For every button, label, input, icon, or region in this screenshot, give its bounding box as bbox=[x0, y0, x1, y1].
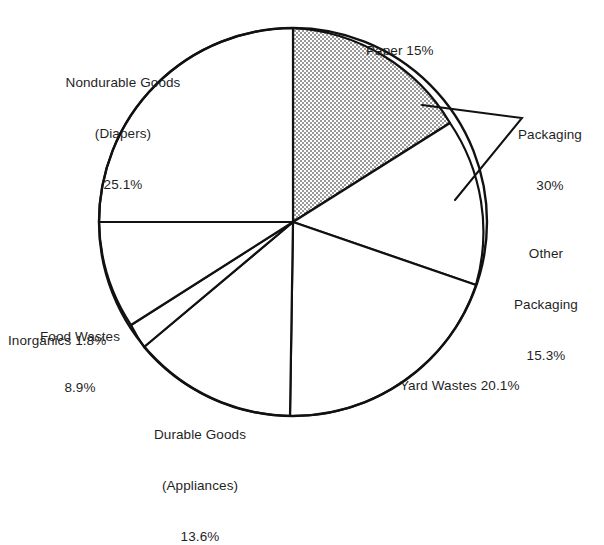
slice-label-food-wastes-line1: Food Wastes bbox=[20, 328, 140, 345]
slice-label-other-packaging: Other Packaging 15.3% bbox=[496, 211, 596, 398]
slice-label-nondurable-goods-line2: (Diapers) bbox=[28, 125, 218, 142]
slice-label-nondurable-goods-line3: 25.1% bbox=[28, 176, 218, 193]
slice-label-food-wastes-line2: 8.9% bbox=[20, 379, 140, 396]
slice-label-yard-wastes: Yard Wastes 20.1% bbox=[400, 377, 590, 394]
annotation-label-packaging-line1: Packaging bbox=[498, 126, 602, 143]
slice-label-other-packaging-line3: 15.3% bbox=[496, 347, 596, 364]
slice-label-other-packaging-line2: Packaging bbox=[496, 296, 596, 313]
slice-label-paper: Paper 15% bbox=[366, 42, 486, 59]
slice-label-nondurable-goods-line1: Nondurable Goods bbox=[28, 74, 218, 91]
slice-label-other-packaging-line1: Other bbox=[496, 245, 596, 262]
slice-label-durable-goods-line2: (Appliances) bbox=[100, 477, 300, 494]
annotation-label-packaging-line2: 30% bbox=[498, 177, 602, 194]
slice-label-food-wastes: Food Wastes 8.9% bbox=[20, 294, 140, 430]
slice-label-nondurable-goods: Nondurable Goods (Diapers) 25.1% bbox=[28, 40, 218, 227]
slice-label-durable-goods-line3: 13.6% bbox=[100, 528, 300, 545]
annotation-label-packaging: Packaging 30% bbox=[498, 92, 602, 228]
